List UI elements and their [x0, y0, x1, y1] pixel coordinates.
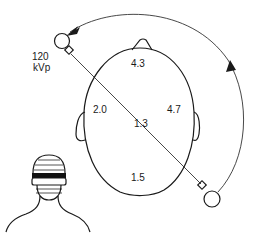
kvp-value: 120	[32, 51, 49, 62]
dose-anterior: 4.3	[131, 58, 145, 69]
dose-posterior: 1.5	[131, 172, 145, 183]
xray-tube-start	[55, 34, 74, 55]
arrowhead-icon	[226, 60, 236, 72]
dose-left: 2.0	[93, 104, 107, 115]
scan-band	[32, 173, 66, 178]
ct-dose-diagram: 120 kVp 4.3 2.0 1.3 4.7 1.5	[0, 0, 254, 240]
dose-center: 1.3	[134, 118, 148, 129]
patient-bust	[6, 155, 90, 232]
dose-right: 4.7	[167, 104, 181, 115]
xray-tube-end	[198, 181, 220, 207]
kvp-unit: kVp	[33, 62, 51, 73]
tube-setting-label: 120 kVp	[32, 51, 51, 73]
